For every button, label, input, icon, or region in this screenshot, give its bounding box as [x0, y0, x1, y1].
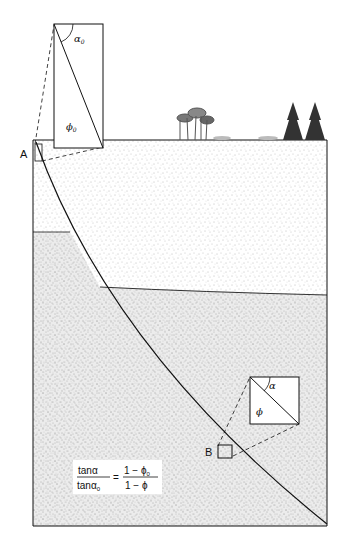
svg-text:=: = — [113, 472, 119, 483]
conifer-trees-icon — [283, 102, 325, 140]
svg-text:ϕ: ϕ — [256, 406, 263, 417]
deciduous-trees-icon — [177, 108, 278, 140]
point-a-label: A — [20, 148, 28, 160]
compaction-equation: tanα tanα0 = 1 − ϕ0 1 − ϕ — [73, 460, 162, 494]
svg-text:α: α — [269, 380, 276, 391]
svg-text:1 − ϕ: 1 − ϕ — [125, 480, 148, 491]
compaction-diagram: α0 ϕ0 A α ϕ B tanα tanα0 = 1 − ϕ0 1 − ϕ — [0, 0, 348, 547]
point-b-label: B — [205, 446, 212, 458]
svg-text:tanα: tanα — [78, 465, 98, 476]
